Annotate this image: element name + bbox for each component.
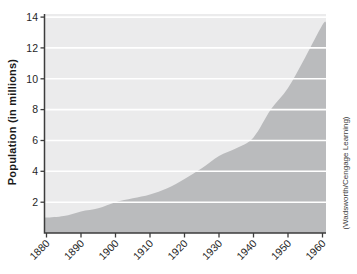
x-tick-label-1910: 1910 [130, 237, 155, 262]
y-tick-label-10: 10 [26, 73, 38, 85]
x-tick-label-1890: 1890 [61, 237, 86, 262]
x-tick-label-1900: 1900 [96, 237, 121, 262]
y-tick-label-12: 12 [26, 42, 38, 54]
y-tick-label-4: 4 [32, 165, 38, 177]
x-tick-label-1950: 1950 [268, 237, 293, 262]
y-tick-label-8: 8 [32, 103, 38, 115]
y-tick-label-14: 14 [26, 11, 38, 23]
source-credit: (Wadsworth/Cengage Learning) [340, 93, 352, 253]
y-tick-label-2: 2 [32, 196, 38, 208]
y-axis-title: Population (in millions) [4, 22, 20, 222]
x-tick-label-1880: 1880 [27, 237, 52, 262]
population-growth-figure: 2468101214188018901900191019201930194019… [0, 0, 357, 274]
y-tick-label-6: 6 [32, 134, 38, 146]
x-tick-label-1940: 1940 [234, 237, 259, 262]
population-area-chart: 2468101214188018901900191019201930194019… [0, 0, 357, 274]
x-tick-label-1920: 1920 [165, 237, 190, 262]
x-tick-label-1930: 1930 [199, 237, 224, 262]
x-tick-label-1960: 1960 [303, 237, 328, 262]
